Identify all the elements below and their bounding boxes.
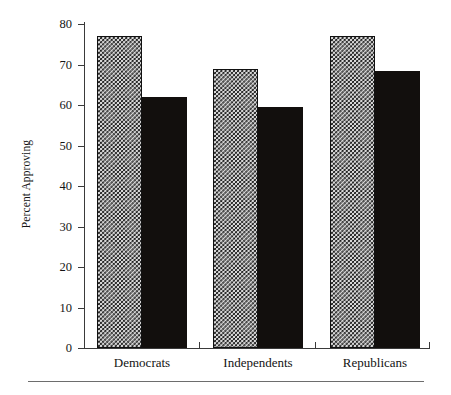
x-axis-line xyxy=(84,348,430,349)
y-axis-tick xyxy=(78,227,85,228)
x-axis-label-republicans: Republicans xyxy=(305,355,445,371)
y-axis-tick-label: 10 xyxy=(38,302,72,314)
x-axis-tick-2 xyxy=(315,342,316,349)
y-axis-tick-label-wrap: 20 xyxy=(36,261,72,273)
y-axis-tick xyxy=(78,267,85,268)
y-axis-tick xyxy=(78,308,85,309)
y-axis-tick-label-wrap: 60 xyxy=(36,99,72,111)
bar-democrats-series-1 xyxy=(97,36,142,348)
bar-republicans-series-2 xyxy=(375,71,420,348)
y-axis-tick xyxy=(78,186,85,187)
y-axis-tick-label: 40 xyxy=(38,180,72,192)
y-axis-tick-label-wrap: 70 xyxy=(36,59,72,71)
y-axis-tick-label-wrap: 0 xyxy=(36,342,72,354)
y-axis-tick-label: 20 xyxy=(38,261,72,273)
y-axis-tick-label: 0 xyxy=(38,342,72,354)
y-axis-tick-label-wrap: 50 xyxy=(36,140,72,152)
bar-chart: Percent Approving 01020304050607080 Demo… xyxy=(0,0,451,395)
bar-democrats-series-2 xyxy=(142,97,187,348)
x-axis-tick-3 xyxy=(429,342,430,349)
y-axis-tick-label-wrap: 30 xyxy=(36,221,72,233)
bottom-rule xyxy=(28,381,424,382)
y-axis-tick-label: 80 xyxy=(38,18,72,30)
y-axis-tick xyxy=(78,105,85,106)
y-axis-tick-label: 60 xyxy=(38,99,72,111)
y-axis-tick-label-wrap: 40 xyxy=(36,180,72,192)
y-axis-tick xyxy=(78,146,85,147)
y-axis-title: Percent Approving xyxy=(20,114,32,254)
y-axis-tick-label: 50 xyxy=(38,140,72,152)
y-axis-tick-label-wrap: 80 xyxy=(36,18,72,30)
bar-independents-series-1 xyxy=(213,69,258,348)
y-axis-tick-label: 70 xyxy=(38,59,72,71)
y-axis-tick-label-wrap: 10 xyxy=(36,302,72,314)
y-axis-tick xyxy=(78,65,85,66)
y-axis-tick-label: 30 xyxy=(38,221,72,233)
bar-independents-series-2 xyxy=(258,107,303,348)
x-axis-tick-1 xyxy=(199,342,200,349)
y-axis-tick xyxy=(78,348,85,349)
bar-republicans-series-1 xyxy=(330,36,375,348)
y-axis-tick xyxy=(78,24,85,25)
